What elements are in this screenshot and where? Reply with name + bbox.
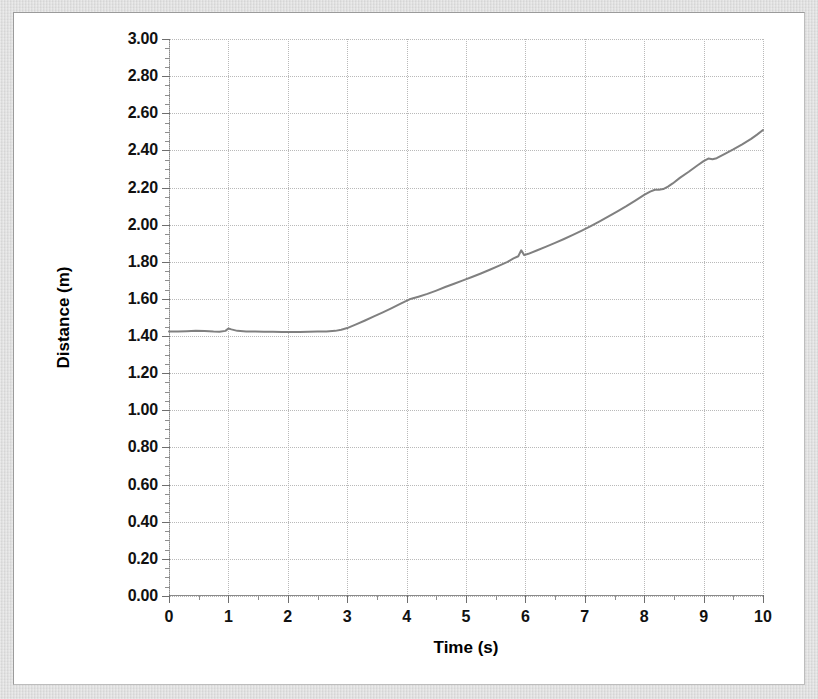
x-tick-major — [525, 595, 526, 603]
gridline-vertical — [763, 39, 764, 596]
x-tick-major — [644, 595, 645, 603]
x-tick-major — [347, 595, 348, 603]
x-axis-title: Time (s) — [169, 638, 763, 658]
x-tick-label: 10 — [754, 608, 772, 626]
x-tick-major — [585, 595, 586, 603]
x-tick-label: 3 — [343, 608, 352, 626]
x-tick-label: 5 — [462, 608, 471, 626]
x-tick-label: 0 — [165, 608, 174, 626]
y-tick-label: 0.60 — [128, 476, 158, 494]
x-tick-label: 8 — [640, 608, 649, 626]
x-tick-major — [407, 595, 408, 603]
x-tick-label: 4 — [402, 608, 411, 626]
y-axis-title: Distance (m) — [54, 39, 76, 596]
y-tick-label: 0.20 — [128, 550, 158, 568]
x-tick-label: 1 — [224, 608, 233, 626]
x-tick-label: 2 — [283, 608, 292, 626]
x-tick-major — [763, 595, 764, 603]
y-tick-label: 2.00 — [128, 216, 158, 234]
y-tick-label: 2.60 — [128, 104, 158, 122]
y-tick-label: 1.00 — [128, 401, 158, 419]
x-tick-major — [466, 595, 467, 603]
x-tick-label: 9 — [699, 608, 708, 626]
y-tick-label: 2.20 — [128, 179, 158, 197]
chart-card: 0.000.200.400.600.801.001.201.401.601.80… — [13, 12, 805, 685]
y-tick-label: 0.00 — [128, 587, 158, 605]
x-tick-major — [228, 595, 229, 603]
x-tick-major — [169, 595, 170, 603]
y-tick-label: 1.40 — [128, 327, 158, 345]
y-tick-label: 2.40 — [128, 141, 158, 159]
y-tick-label: 1.60 — [128, 290, 158, 308]
plot-area: 0.000.200.400.600.801.001.201.401.601.80… — [169, 39, 763, 596]
x-tick-label: 7 — [580, 608, 589, 626]
y-tick-label: 2.80 — [128, 67, 158, 85]
y-tick-label: 0.80 — [128, 438, 158, 456]
x-tick-major — [288, 595, 289, 603]
figure-frame: 0.000.200.400.600.801.001.201.401.601.80… — [0, 0, 818, 699]
y-tick-label: 0.40 — [128, 513, 158, 531]
data-series-line — [169, 39, 763, 596]
x-tick-major — [704, 595, 705, 603]
y-tick-label: 1.20 — [128, 364, 158, 382]
x-tick-label: 6 — [521, 608, 530, 626]
y-tick-label: 1.80 — [128, 253, 158, 271]
y-tick-label: 3.00 — [128, 30, 158, 48]
